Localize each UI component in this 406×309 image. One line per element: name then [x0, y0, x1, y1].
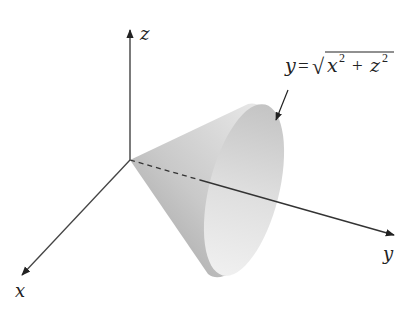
eq-term1-base: x [327, 54, 338, 76]
eq-plus: + [352, 55, 363, 76]
x-axis [22, 160, 130, 275]
eq-lhs: y [284, 54, 296, 76]
y-axis-label: y [382, 243, 394, 264]
eq-radical: √ [312, 54, 325, 79]
z-axis-label: z [139, 23, 150, 44]
eq-term1-exp: 2 [339, 51, 345, 65]
eq-equals: = [298, 55, 309, 76]
surface-equation-label: y = √ x 2 + z 2 [284, 51, 394, 79]
eq-term2-base: z [369, 54, 381, 76]
label-pointer-arrow [276, 90, 288, 120]
x-axis-label: x [15, 280, 25, 301]
eq-term2-exp: 2 [382, 51, 388, 65]
cone-diagram: z x y y = √ x 2 + z 2 [0, 0, 406, 309]
